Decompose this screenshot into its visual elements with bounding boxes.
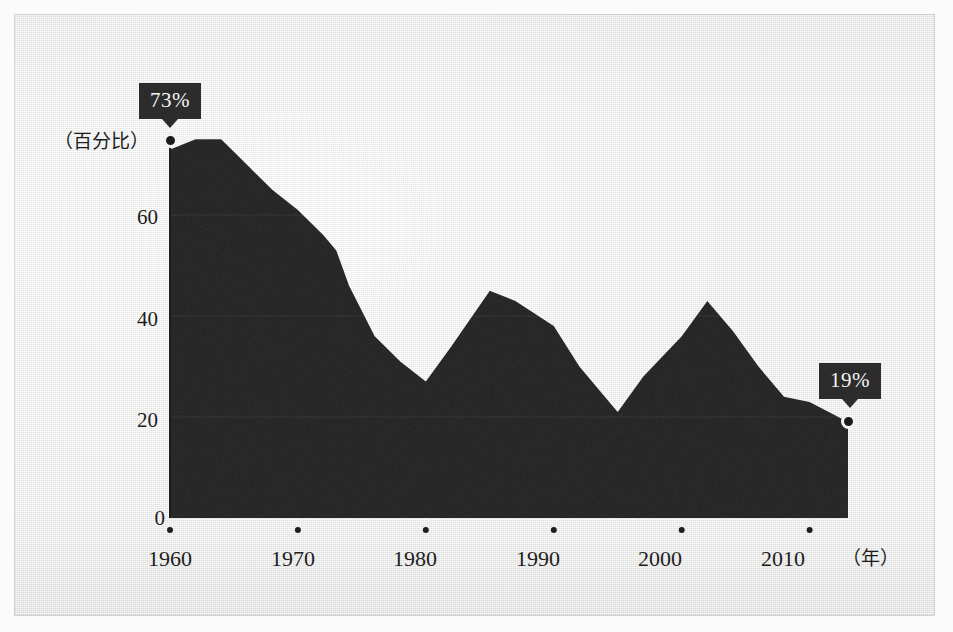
x-axis-tick-dots <box>167 527 813 533</box>
x-axis-tick-dot <box>807 527 813 533</box>
x-tick-label-2000: 2000 <box>605 548 715 570</box>
y-tick-label-0: 0 <box>105 508 165 529</box>
y-tick-label-40: 40 <box>98 309 158 330</box>
data-label-end: 19% <box>819 363 881 399</box>
area-fill <box>170 139 848 518</box>
x-tick-label-1970: 1970 <box>238 548 348 570</box>
y-tick-label-20: 20 <box>98 410 158 431</box>
data-point-marker-end <box>841 414 856 429</box>
y-tick-label-60: 60 <box>98 207 158 228</box>
x-axis-caption: （年） <box>842 549 899 568</box>
area-chart: 60 40 20 0 （百分比） 1960 1970 1980 1990 200… <box>0 0 953 632</box>
x-axis-tick-dot <box>167 527 173 533</box>
x-axis-tick-dot <box>423 527 429 533</box>
y-axis-caption: （百分比） <box>54 132 149 151</box>
x-axis-tick-dot <box>551 527 557 533</box>
x-axis-tick-dot <box>295 527 301 533</box>
data-point-marker-start <box>163 133 178 148</box>
x-tick-label-1990: 1990 <box>483 548 593 570</box>
x-tick-label-2010: 2010 <box>728 548 838 570</box>
x-tick-label-1960: 1960 <box>115 548 225 570</box>
scanned-page: 60 40 20 0 （百分比） 1960 1970 1980 1990 200… <box>0 0 953 632</box>
data-label-start: 73% <box>139 83 201 119</box>
x-tick-label-1980: 1980 <box>360 548 470 570</box>
x-axis-tick-dot <box>679 527 685 533</box>
